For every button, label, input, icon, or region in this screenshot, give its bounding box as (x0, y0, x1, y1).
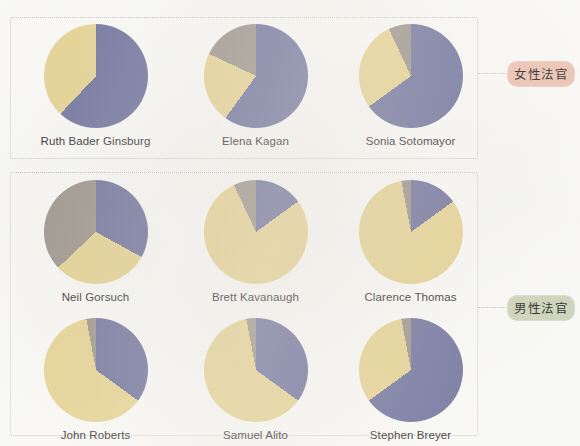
pie-chart-elena-kagan[interactable] (204, 24, 308, 128)
pie-wrap (44, 318, 148, 422)
pie-cell-stephen-breyer: Stephen Breyer (333, 318, 488, 441)
pie-chart-brett-kavanaugh[interactable] (204, 180, 308, 284)
pie-wrap (44, 24, 148, 128)
pie-chart-ruth-bader-ginsburg[interactable] (44, 24, 148, 128)
pie-label-clarence-thomas: Clarence Thomas (333, 291, 488, 303)
pie-label-stephen-breyer: Stephen Breyer (333, 429, 488, 441)
pie-cell-neil-gorsuch: Neil Gorsuch (18, 180, 173, 303)
pie-wrap (359, 24, 463, 128)
pie-cell-brett-kavanaugh: Brett Kavanaugh (178, 180, 333, 303)
pie-wrap (204, 24, 308, 128)
pie-chart-clarence-thomas[interactable] (359, 180, 463, 284)
leader-line-male (478, 307, 506, 308)
pie-wrap (204, 318, 308, 422)
pie-chart-neil-gorsuch[interactable] (44, 180, 148, 284)
pie-cell-samuel-alito: Samuel Alito (178, 318, 333, 441)
pie-wrap (204, 180, 308, 284)
pie-cell-clarence-thomas: Clarence Thomas (333, 180, 488, 303)
pie-label-brett-kavanaugh: Brett Kavanaugh (178, 291, 333, 303)
pie-label-sonia-sotomayor: Sonia Sotomayor (333, 135, 488, 147)
pie-chart-john-roberts[interactable] (44, 318, 148, 422)
pie-cell-john-roberts: John Roberts (18, 318, 173, 441)
pie-wrap (44, 180, 148, 284)
pie-cell-sonia-sotomayor: Sonia Sotomayor (333, 24, 488, 147)
pie-chart-stephen-breyer[interactable] (359, 318, 463, 422)
pie-label-neil-gorsuch: Neil Gorsuch (18, 291, 173, 303)
pie-label-ruth-bader-ginsburg: Ruth Bader Ginsburg (18, 135, 173, 147)
annotation-tag-female-justices: 女性法官 (508, 62, 574, 86)
pie-label-samuel-alito: Samuel Alito (178, 429, 333, 441)
annotation-tag-male-justices: 男性法官 (508, 296, 574, 320)
pie-cell-ruth-bader-ginsburg: Ruth Bader Ginsburg (18, 24, 173, 147)
document-page: Ruth Bader Ginsburg Elena Kagan Sonia So… (0, 0, 580, 446)
pie-chart-samuel-alito[interactable] (204, 318, 308, 422)
pie-label-elena-kagan: Elena Kagan (178, 135, 333, 147)
pie-wrap (359, 318, 463, 422)
pie-chart-sonia-sotomayor[interactable] (359, 24, 463, 128)
pie-cell-elena-kagan: Elena Kagan (178, 24, 333, 147)
pie-label-john-roberts: John Roberts (18, 429, 173, 441)
leader-line-female (478, 73, 506, 74)
pie-wrap (359, 180, 463, 284)
